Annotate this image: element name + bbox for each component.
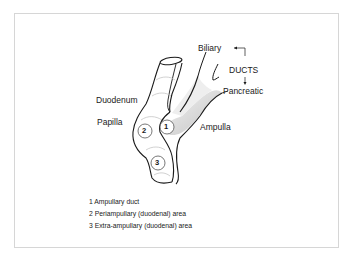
legend-item-periampullary-area: 2 Periampullary (duodenal) area	[89, 211, 186, 218]
label-ducts: DUCTS	[229, 66, 258, 75]
marker-2-number: 2	[142, 127, 146, 135]
label-pancreatic: Pancreatic	[223, 87, 263, 96]
label-ampulla: Ampulla	[200, 123, 231, 132]
legend-item-extra-ampullary-area: 3 Extra-ampullary (duodenal) area	[89, 223, 192, 230]
legend-item-ampullary-duct: 1 Ampullary duct	[89, 199, 139, 206]
marker-1-number: 1	[164, 123, 168, 131]
label-biliary: Biliary	[198, 44, 221, 53]
biliary-duct	[198, 52, 206, 76]
label-duodenum: Duodenum	[96, 96, 138, 105]
duodenum-opening	[160, 56, 183, 66]
label-papilla: Papilla	[97, 118, 123, 127]
ducts-bracket	[234, 48, 245, 56]
marker-3-number: 3	[155, 159, 159, 167]
